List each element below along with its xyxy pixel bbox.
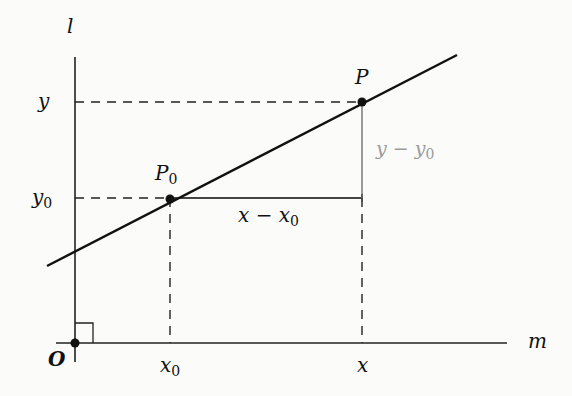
- label-p0-base: P: [154, 161, 169, 185]
- label-y-minus-y0-sub: 0: [425, 146, 434, 162]
- label-x0-sub: 0: [171, 363, 180, 379]
- label-p: P: [354, 65, 369, 89]
- diagram-canvas: l m O y y0 x0 x P0 P x − x0 y − y0: [0, 0, 572, 396]
- label-y0: y0: [31, 185, 52, 211]
- main-line: [47, 55, 457, 266]
- label-origin: O: [48, 347, 66, 371]
- label-x: x: [357, 353, 368, 377]
- label-x0: x0: [160, 353, 180, 379]
- point-p: [358, 98, 367, 107]
- label-y-minus-y0: y − y0: [375, 137, 434, 162]
- label-x0-base: x: [160, 353, 171, 377]
- label-l: l: [67, 14, 73, 38]
- point-origin: [71, 339, 80, 348]
- diagram-svg: l m O y y0 x0 x P0 P x − x0 y − y0: [0, 0, 572, 396]
- label-p0: P0: [154, 161, 177, 187]
- label-x-minus-x0-sub: 0: [290, 213, 299, 229]
- label-x-minus-x0: x − x0: [238, 203, 299, 229]
- label-p0-sub: 0: [168, 171, 177, 187]
- label-y: y: [37, 89, 50, 113]
- label-y0-base: y: [31, 185, 44, 209]
- label-y-minus-y0-base: y − y: [375, 137, 426, 159]
- point-p0: [166, 195, 175, 204]
- label-y0-sub: 0: [43, 195, 52, 211]
- label-m: m: [528, 329, 547, 353]
- label-x-minus-x0-base: x − x: [238, 203, 290, 227]
